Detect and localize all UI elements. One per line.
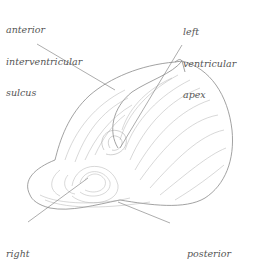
label-left-ventricular-apex: left ventricular apex [183,6,236,122]
label-posterior-interventricular-sulcus: posterior interventricular sulcus [187,228,259,267]
label-right-ventricular-apex: right ventricular apex [6,228,59,267]
heart-fiber-diagram: anterior interventricular sulcus left ve… [0,0,259,267]
leader-left-apex [120,45,182,148]
label-anterior-interventricular-sulcus: anterior interventricular sulcus [6,4,82,120]
